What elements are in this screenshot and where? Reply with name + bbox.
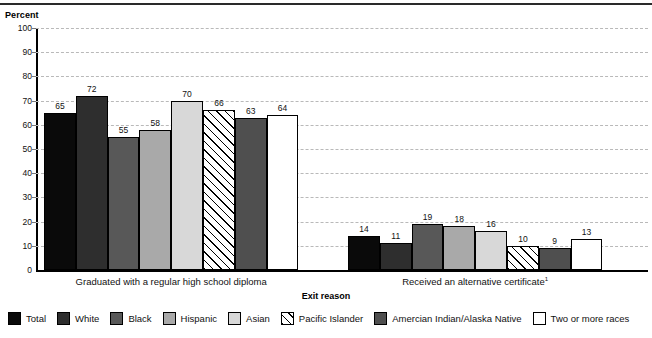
y-tick-label: 50 [2, 144, 32, 154]
bar-value-label: 14 [348, 224, 380, 234]
bar [443, 226, 475, 270]
top-rule [0, 3, 652, 5]
legend-item[interactable]: Amercian Indian/Alaska Native [374, 312, 521, 325]
bar-value-label: 18 [443, 214, 475, 224]
gridline [36, 76, 648, 77]
y-tick-mark [32, 149, 36, 150]
y-tick-mark [32, 101, 36, 102]
bar-value-label: 58 [139, 118, 171, 128]
bar-chart: Percent 1009080706050403020100 657255587… [0, 0, 652, 338]
y-axis-tick-labels: 1009080706050403020100 [0, 28, 32, 270]
y-tick-label: 0 [2, 265, 32, 275]
two-or-more-races-swatch [533, 312, 546, 325]
y-tick-label: 70 [2, 96, 32, 106]
legend-item[interactable]: Total [8, 312, 46, 325]
y-tick-mark [32, 197, 36, 198]
footnote-marker: 1 [545, 276, 548, 282]
y-tick-label: 20 [2, 217, 32, 227]
y-tick-label: 10 [2, 241, 32, 251]
y-axis-title: Percent [5, 10, 39, 20]
legend-label: Asian [246, 313, 270, 324]
bar [139, 130, 171, 270]
bar [380, 243, 412, 270]
bar [348, 236, 380, 270]
bar-value-label: 19 [412, 212, 444, 222]
bar-value-label: 9 [539, 236, 571, 246]
bar-value-label: 72 [76, 84, 108, 94]
y-tick-label: 40 [2, 168, 32, 178]
bar-value-label: 63 [235, 106, 267, 116]
chart-legend: TotalWhiteBlackHispanicAsianPacific Isla… [8, 312, 648, 325]
bar [475, 231, 507, 270]
gridline [36, 101, 648, 102]
gridline [36, 52, 648, 53]
bar-value-label: 64 [267, 103, 299, 113]
pacific-islander-swatch [281, 312, 294, 325]
legend-label: Black [128, 313, 151, 324]
bar [412, 224, 444, 270]
american-indian-swatch [374, 312, 387, 325]
bar-value-label: 16 [475, 219, 507, 229]
black-swatch [110, 312, 123, 325]
total-swatch [8, 312, 21, 325]
legend-label: Pacific Islander [299, 313, 363, 324]
y-tick-label: 100 [2, 23, 32, 33]
y-tick-label: 30 [2, 192, 32, 202]
y-tick-mark [32, 173, 36, 174]
x-axis-line [36, 270, 648, 272]
bar-value-label: 55 [108, 125, 140, 135]
legend-item[interactable]: Two or more races [533, 312, 630, 325]
y-tick-label: 60 [2, 120, 32, 130]
y-tick-mark [32, 222, 36, 223]
gridline [36, 28, 648, 29]
bar-value-label: 13 [571, 227, 603, 237]
y-tick-mark [32, 28, 36, 29]
bar [203, 110, 235, 270]
y-tick-mark [32, 52, 36, 53]
legend-item[interactable]: Asian [228, 312, 270, 325]
legend-label: Amercian Indian/Alaska Native [392, 313, 521, 324]
asian-swatch [228, 312, 241, 325]
bar-value-label: 10 [507, 234, 539, 244]
bar [267, 115, 299, 270]
hispanic-swatch [163, 312, 176, 325]
bar-value-label: 65 [44, 101, 76, 111]
y-tick-mark [32, 76, 36, 77]
bar [235, 118, 267, 270]
y-tick-mark [32, 125, 36, 126]
bar [44, 113, 76, 270]
legend-label: White [75, 313, 99, 324]
y-tick-mark [32, 246, 36, 247]
bar [571, 239, 603, 270]
legend-item[interactable]: White [57, 312, 99, 325]
legend-label: Two or more races [551, 313, 630, 324]
bar-value-label: 66 [203, 98, 235, 108]
y-tick-label: 80 [2, 71, 32, 81]
legend-item[interactable]: Pacific Islander [281, 312, 363, 325]
legend-label: Hispanic [181, 313, 217, 324]
group-label-alternative-certificate: Received an alternative certificate1 [315, 276, 635, 287]
x-axis-title: Exit reason [0, 291, 652, 301]
bar [76, 96, 108, 270]
white-swatch [57, 312, 70, 325]
bar [171, 101, 203, 270]
bar [539, 248, 571, 270]
y-tick-label: 90 [2, 47, 32, 57]
bar [507, 246, 539, 270]
legend-label: Total [26, 313, 46, 324]
bar-value-label: 70 [171, 89, 203, 99]
legend-item[interactable]: Hispanic [163, 312, 217, 325]
bar-value-label: 11 [380, 231, 412, 241]
bar [108, 137, 140, 270]
group-label-graduated: Graduated with a regular high school dip… [11, 276, 331, 287]
legend-item[interactable]: Black [110, 312, 151, 325]
plot-area: 6572555870666364141119181610913 [36, 28, 648, 270]
